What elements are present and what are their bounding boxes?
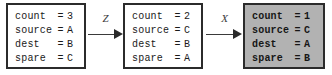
variable-name: dest <box>8 38 54 52</box>
variable-name: spare <box>8 52 54 66</box>
arrow-head-icon <box>233 29 242 39</box>
equals-sign: = <box>54 10 67 24</box>
variable-value: C <box>184 24 196 38</box>
arrow-line <box>88 34 115 35</box>
equals-sign: = <box>171 52 184 66</box>
variable-value: A <box>184 52 196 66</box>
variable-list-3: count = 1 source = C dest = A spare = B <box>245 5 323 66</box>
variable-name: dest <box>245 38 291 52</box>
transition-arrow-2: X <box>206 25 243 45</box>
equals-sign: = <box>54 52 67 66</box>
variable-name: count <box>8 10 54 24</box>
variable-row: count = 1 <box>245 10 323 24</box>
variable-value: A <box>67 24 79 38</box>
variable-row: dest = B <box>8 38 84 52</box>
equals-sign: = <box>291 24 304 38</box>
arrow-head-icon <box>114 29 123 39</box>
variable-row: count = 3 <box>8 10 84 24</box>
equals-sign: = <box>171 10 184 24</box>
arrow-label: Z <box>88 12 123 24</box>
variable-value: B <box>184 38 196 52</box>
variable-value: C <box>67 52 79 66</box>
variable-value: 1 <box>304 10 316 24</box>
equals-sign: = <box>291 10 304 24</box>
arrow-line <box>206 34 234 35</box>
variable-list-1: count = 3 source = A dest = B spare = C <box>8 5 84 66</box>
equals-sign: = <box>171 24 184 38</box>
variable-row: spare = B <box>245 52 323 66</box>
variable-value: B <box>67 38 79 52</box>
transition-arrow-1: Z <box>88 25 123 45</box>
state-box-2: count = 2 source = C dest = B spare = A <box>123 3 203 69</box>
variable-name: spare <box>245 52 291 66</box>
equals-sign: = <box>171 38 184 52</box>
equals-sign: = <box>291 52 304 66</box>
variable-name: count <box>125 10 171 24</box>
variable-name: dest <box>125 38 171 52</box>
variable-row: dest = B <box>125 38 201 52</box>
variable-value: B <box>304 52 316 66</box>
state-transition-diagram: count = 3 source = A dest = B spare = C … <box>0 0 332 75</box>
variable-name: source <box>245 24 291 38</box>
variable-value: C <box>304 24 316 38</box>
equals-sign: = <box>54 24 67 38</box>
variable-value: A <box>304 38 316 52</box>
variable-row: spare = C <box>8 52 84 66</box>
variable-value: 2 <box>184 10 196 24</box>
equals-sign: = <box>54 38 67 52</box>
variable-name: count <box>245 10 291 24</box>
variable-list-2: count = 2 source = C dest = B spare = A <box>125 5 201 66</box>
variable-value: 3 <box>67 10 79 24</box>
arrow-label: X <box>206 12 243 24</box>
variable-name: source <box>125 24 171 38</box>
variable-row: count = 2 <box>125 10 201 24</box>
variable-row: source = A <box>8 24 84 38</box>
variable-row: spare = A <box>125 52 201 66</box>
state-box-3: count = 1 source = C dest = A spare = B <box>243 3 325 69</box>
variable-row: dest = A <box>245 38 323 52</box>
variable-row: source = C <box>125 24 201 38</box>
equals-sign: = <box>291 38 304 52</box>
variable-name: spare <box>125 52 171 66</box>
variable-row: source = C <box>245 24 323 38</box>
variable-name: source <box>8 24 54 38</box>
state-box-1: count = 3 source = A dest = B spare = C <box>6 3 86 69</box>
